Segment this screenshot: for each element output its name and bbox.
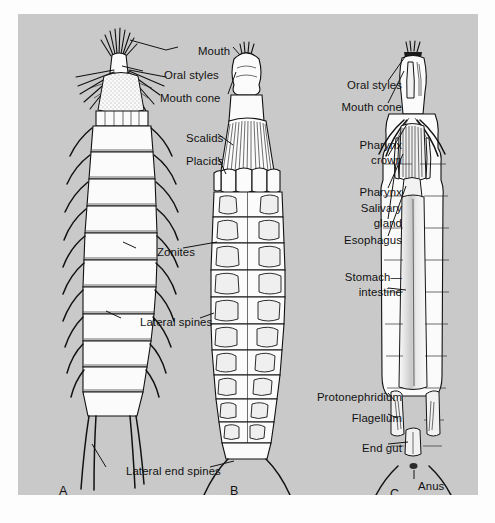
label-stomach: Stomach— — [345, 271, 402, 283]
label-pharynx: Pharynx — [360, 139, 403, 151]
panel-b-zonites — [211, 192, 285, 459]
label-pharynx: Pharynx — [360, 186, 403, 198]
panel-a-placids — [96, 111, 148, 126]
label-anus: Anus — [418, 480, 444, 492]
label-mouth-cone: Mouth cone — [160, 92, 221, 104]
panel-letter-a: A — [59, 484, 67, 495]
panel-c-anus — [410, 463, 418, 469]
label-end-gut: End gut — [362, 442, 402, 454]
figure-kinorhynch-anatomy: MouthOral stylesMouth coneScalidsPlacids… — [0, 0, 495, 523]
label-scalids: Scalids — [186, 132, 223, 144]
panel-a-introvert — [98, 73, 144, 114]
panel-b-placids — [214, 168, 280, 193]
panel-b-mouth-cone — [232, 53, 261, 95]
label-placids: Placids — [186, 155, 223, 167]
panel-b-oral-styles — [240, 42, 254, 54]
label-mouth-cone: Mouth cone — [341, 101, 402, 113]
panel-b-neck — [229, 95, 264, 121]
panel-c-oral-styles — [406, 41, 420, 52]
label-protonephridium: Protonephridium — [317, 391, 402, 403]
label-salivary: Salivary — [361, 202, 402, 214]
panel-letter-c: C — [390, 487, 399, 495]
leader-mouth-a — [130, 40, 178, 50]
panel-a-oral-styles — [101, 28, 137, 56]
label-oral-styles: Oral styles — [164, 69, 219, 81]
label-lateral-spines: Lateral spines — [140, 316, 212, 328]
panel-a-lateral-end-spines — [81, 416, 144, 490]
panel-c-buccal-canal — [407, 62, 415, 98]
label-lateral-end-spines: Lateral end spines — [126, 465, 221, 477]
figure-plate: MouthOral stylesMouth coneScalidsPlacids… — [18, 14, 478, 495]
label-mouth: Mouth — [198, 45, 230, 57]
label-flagellum: Flagellum — [352, 412, 402, 424]
label-intestine: intestine — [359, 286, 402, 298]
leader-mouth-b — [233, 47, 240, 55]
figure-artwork — [18, 14, 478, 495]
label-esophagus: Esophagus — [344, 234, 402, 246]
panel-b-artwork — [204, 42, 290, 495]
label-gland: gland — [374, 217, 402, 229]
panel-a-zonites — [83, 126, 157, 416]
label-oral-styles: Oral styles — [347, 79, 402, 91]
label-zonites: Zonites — [157, 246, 195, 258]
label-crown: crown — [371, 154, 402, 166]
panel-letter-b: B — [230, 484, 238, 495]
